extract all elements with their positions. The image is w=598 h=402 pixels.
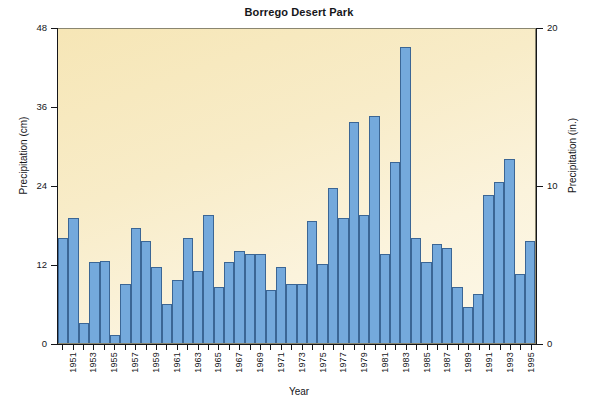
x-tick-label-1983: 1983	[401, 352, 411, 373]
bar-1967	[234, 251, 244, 343]
x-tick-label-1993: 1993	[505, 352, 515, 373]
bar-1960	[162, 304, 172, 344]
x-tick	[375, 345, 376, 350]
bar-1957	[131, 228, 141, 343]
x-tick-label-1969: 1969	[255, 352, 265, 373]
bar-1969	[255, 254, 265, 343]
x-axis-line	[57, 344, 537, 345]
y-tick-left	[51, 186, 57, 187]
bar-1950	[58, 238, 68, 343]
x-tick-label-1987: 1987	[442, 352, 452, 373]
bar-1976	[328, 188, 338, 343]
bar-1964	[203, 215, 213, 343]
x-tick-label-1957: 1957	[130, 352, 140, 373]
x-tick-label-1991: 1991	[484, 352, 494, 373]
x-tick	[104, 345, 105, 350]
y-tick-label-left-24: 24	[7, 180, 47, 191]
x-tick	[364, 345, 365, 350]
x-tick	[406, 345, 407, 350]
bar-series	[58, 29, 535, 343]
x-tick	[177, 345, 178, 350]
x-tick-label-1975: 1975	[318, 352, 328, 373]
x-tick-label-1967: 1967	[234, 352, 244, 373]
x-tick-label-1979: 1979	[359, 352, 369, 373]
bar-1986	[432, 244, 442, 343]
y-tick-label-right-20: 20	[547, 22, 587, 33]
bar-1988	[452, 287, 462, 343]
x-tick	[166, 345, 167, 350]
y-tick-label-left-48: 48	[7, 22, 47, 33]
bar-1985	[421, 262, 431, 343]
y-tick-left	[51, 107, 57, 108]
bar-1965	[214, 287, 224, 343]
bar-1978	[349, 122, 359, 343]
x-tick	[218, 345, 219, 350]
y-tick-label-left-0: 0	[7, 338, 47, 349]
x-tick	[531, 345, 532, 350]
x-tick	[250, 345, 251, 350]
bar-1981	[380, 254, 390, 343]
y-tick-right	[537, 28, 543, 29]
x-tick	[312, 345, 313, 350]
x-axis-title: Year	[0, 386, 598, 397]
bar-1992	[494, 182, 504, 343]
bar-1973	[297, 284, 307, 343]
x-tick	[281, 345, 282, 350]
bar-1953	[89, 262, 99, 343]
x-tick	[135, 345, 136, 350]
bar-1993	[504, 159, 514, 343]
x-tick	[510, 345, 511, 350]
y-axis-right-title: Precipitation (in.)	[567, 71, 578, 241]
bar-1970	[266, 290, 276, 343]
x-tick	[333, 345, 334, 350]
bar-1968	[245, 254, 255, 343]
bar-1952	[79, 323, 89, 343]
bar-1987	[442, 248, 452, 343]
x-tick	[427, 345, 428, 350]
x-tick-label-1961: 1961	[172, 352, 182, 373]
x-tick	[291, 345, 292, 350]
bar-1994	[515, 274, 525, 343]
x-tick	[468, 345, 469, 350]
y-tick-right	[537, 186, 543, 187]
x-tick	[125, 345, 126, 350]
x-tick	[198, 345, 199, 350]
x-tick-label-1985: 1985	[422, 352, 432, 373]
bar-1961	[172, 280, 182, 343]
x-tick	[416, 345, 417, 350]
y-tick-label-left-36: 36	[7, 101, 47, 112]
y-tick-label-right-10: 10	[547, 180, 587, 191]
x-tick	[395, 345, 396, 350]
x-tick	[479, 345, 480, 350]
y-tick-right	[537, 344, 543, 345]
plot-area	[57, 28, 536, 344]
bar-1971	[276, 267, 286, 343]
x-tick	[458, 345, 459, 350]
bar-1951	[68, 218, 78, 343]
precipitation-bar-chart: Borrego Desert Park Precipitation (cm) P…	[0, 0, 598, 402]
x-tick	[156, 345, 157, 350]
y-axis-left-line	[57, 28, 58, 344]
x-tick	[62, 345, 63, 350]
x-tick	[489, 345, 490, 350]
bar-1984	[411, 238, 421, 343]
x-tick	[302, 345, 303, 350]
x-tick	[239, 345, 240, 350]
x-tick	[93, 345, 94, 350]
x-tick	[343, 345, 344, 350]
y-tick-label-left-12: 12	[7, 259, 47, 270]
bar-1975	[317, 264, 327, 343]
x-tick-label-1959: 1959	[151, 352, 161, 373]
bar-1956	[120, 284, 130, 343]
bar-1983	[400, 47, 410, 343]
chart-title: Borrego Desert Park	[0, 6, 598, 18]
y-tick-left	[51, 265, 57, 266]
x-tick-label-1953: 1953	[88, 352, 98, 373]
y-tick-left	[51, 28, 57, 29]
x-tick	[447, 345, 448, 350]
x-tick	[83, 345, 84, 350]
x-tick	[520, 345, 521, 350]
x-tick-label-1973: 1973	[297, 352, 307, 373]
bar-1972	[286, 284, 296, 343]
bar-1954	[100, 261, 110, 343]
